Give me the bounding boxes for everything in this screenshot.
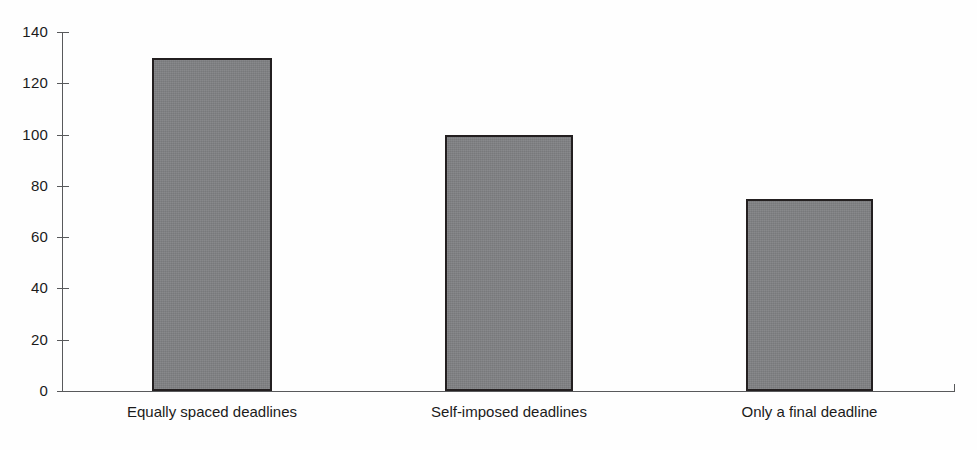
y-axis-tick-label: 60 [0,229,48,244]
x-axis-category-label: Only a final deadline [650,404,970,421]
bar-1 [445,135,573,391]
y-axis-tick-label: 140 [0,24,48,39]
x-axis-end-tick [954,384,955,392]
plot-area [62,32,955,391]
y-axis-tick-label: 40 [0,280,48,295]
bar-2 [746,199,873,391]
bar-0 [152,58,272,391]
x-axis-category-label: Equally spaced deadlines [52,404,372,421]
y-axis-tick-label: 0 [0,383,48,398]
y-axis-tick-label: 80 [0,178,48,193]
y-axis-tick-label: 120 [0,75,48,90]
x-axis-line [62,391,955,392]
x-axis-category-label: Self-imposed deadlines [349,404,669,421]
y-axis-tick-label: 100 [0,127,48,142]
y-axis-tick-label: 20 [0,332,48,347]
bar-chart: 020406080100120140 Equally spaced deadli… [0,0,977,450]
